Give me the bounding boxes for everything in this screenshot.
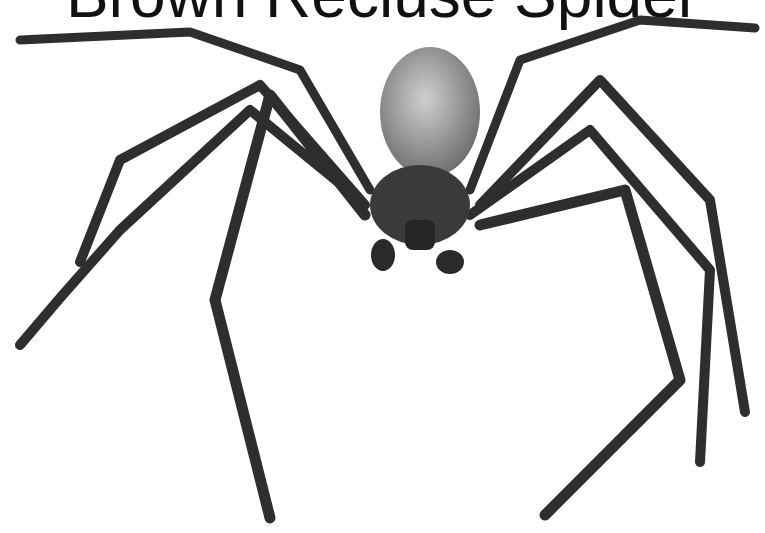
spider-icon bbox=[0, 0, 765, 533]
pedipalp-left bbox=[371, 239, 395, 271]
leg-r3 bbox=[480, 190, 680, 515]
spider-illustration: Brown Recluse Spider bbox=[0, 0, 765, 533]
pedipalp-right bbox=[436, 250, 464, 274]
abdomen bbox=[380, 47, 480, 177]
chelicerae bbox=[405, 220, 435, 250]
leg-l3 bbox=[215, 95, 365, 518]
